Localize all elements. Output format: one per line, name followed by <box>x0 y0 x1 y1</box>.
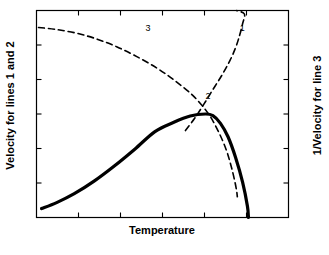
axis-ticks <box>37 11 289 218</box>
plot-frame <box>37 11 289 218</box>
curve-label-1: 1 <box>240 23 245 33</box>
curve-label-2: 2 <box>206 91 211 101</box>
data-series <box>39 11 249 218</box>
plot-svg <box>0 0 329 255</box>
figure-container: Velocity for lines 1 and 2 1/Velocity fo… <box>0 0 329 255</box>
curve-line-1 <box>185 11 244 131</box>
curve-label-3: 3 <box>145 23 150 33</box>
curve-line-3 <box>39 27 238 196</box>
plot-axes <box>37 11 289 218</box>
